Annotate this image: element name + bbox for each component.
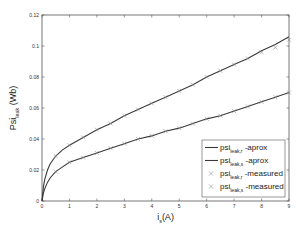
- measured-marker: [177, 89, 181, 93]
- x-tick-label: 2: [95, 203, 98, 209]
- y-tick-label: 0.1: [32, 43, 39, 49]
- x-tick-label: 5: [178, 203, 181, 209]
- y-tick-label: 0.12: [29, 12, 39, 18]
- y-tick-label: 0: [36, 198, 39, 204]
- x-tick-label: 9: [288, 203, 291, 209]
- legend-entry-label: psileak,s -measured: [220, 182, 284, 193]
- x-tick-label: 6: [205, 203, 208, 209]
- measured-marker: [246, 56, 250, 60]
- legend-entry-label: psileak,s -aprox: [220, 156, 268, 167]
- y-tick-label: 0.06: [29, 105, 39, 111]
- measured-marker: [54, 154, 58, 158]
- legend-entry-label: psileak,r -aprox: [220, 143, 267, 154]
- x-tick-label: 3: [123, 203, 126, 209]
- x-tick-label: 7: [233, 203, 236, 209]
- y-axis-label: Psileak (Wb): [8, 86, 20, 131]
- measured-marker: [232, 63, 236, 67]
- y-tick-label: 0.04: [29, 136, 39, 142]
- x-tick-label: 0: [41, 203, 44, 209]
- legend-entry-label: psileak,r -measured: [220, 169, 283, 180]
- measured-marker: [218, 69, 222, 73]
- y-tick-label: 0.08: [29, 74, 39, 80]
- x-tick-label: 1: [68, 203, 71, 209]
- measured-marker: [81, 135, 85, 139]
- measured-marker: [164, 95, 168, 99]
- measured-marker: [150, 101, 154, 105]
- measured-marker: [122, 114, 126, 118]
- x-tick-label: 8: [260, 203, 263, 209]
- measured-marker: [273, 46, 277, 50]
- measured-marker: [95, 128, 99, 132]
- chart: 012345678900.020.040.060.080.10.12 psile…: [0, 0, 305, 230]
- y-tick-label: 0.02: [29, 167, 39, 173]
- x-axis-label: is(A): [157, 212, 174, 224]
- measured-marker: [109, 122, 113, 126]
- measured-marker: [67, 143, 71, 147]
- measured-marker: [136, 108, 140, 112]
- measured-marker: [205, 75, 209, 79]
- measured-marker: [54, 170, 58, 174]
- x-tick-label: 4: [150, 203, 153, 209]
- measured-marker: [191, 83, 195, 87]
- legend: psileak,r -aproxpsileak,s -aproxpsileak,…: [202, 140, 285, 197]
